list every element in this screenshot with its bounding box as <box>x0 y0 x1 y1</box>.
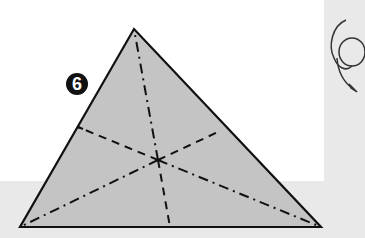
step-number-badge: 6 <box>66 73 88 95</box>
origami-diagram <box>0 0 365 238</box>
paper-triangle <box>20 29 321 227</box>
turn-over-arrow-icon <box>331 20 365 92</box>
